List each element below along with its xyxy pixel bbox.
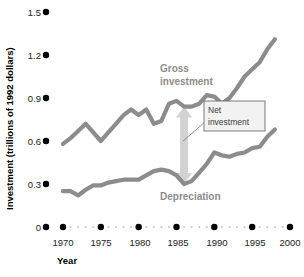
x-tick-dot-major xyxy=(173,224,179,230)
x-tick-dot-major xyxy=(98,224,104,230)
net-investment-arrow-shaft xyxy=(180,116,188,175)
x-tick-dot-minor xyxy=(145,226,147,228)
x-tick-dot-major xyxy=(60,224,66,230)
y-tick-label-4: 1.2 xyxy=(28,50,41,61)
x-tick-label-2000: 2000 xyxy=(279,237,300,248)
x-tick-dot-minor xyxy=(85,226,87,228)
y-tick-dot-5 xyxy=(43,9,49,15)
x-tick-dot-minor xyxy=(236,226,238,228)
x-tick-dot-minor xyxy=(228,226,230,228)
x-tick-dot-minor xyxy=(92,226,94,228)
y-tick-label-1: 0.3 xyxy=(28,179,41,190)
x-tick-dot-minor xyxy=(191,226,193,228)
x-tick-label-1995: 1995 xyxy=(244,237,265,248)
x-tick-dot-minor xyxy=(107,226,109,228)
x-tick-dot-minor xyxy=(130,226,132,228)
x-tick-label-1985: 1985 xyxy=(167,237,188,248)
depreciation-label: Depreciation xyxy=(160,191,221,202)
x-tick-dot-minor xyxy=(244,226,246,228)
x-tick-dot-minor xyxy=(198,226,200,228)
x-tick-dot-minor xyxy=(168,226,170,228)
y-tick-label-3: 0.9 xyxy=(28,93,41,104)
x-axis-title: Year xyxy=(57,255,77,266)
x-tick-dot-major xyxy=(249,224,255,230)
net-investment-label-line1: Net xyxy=(208,105,222,115)
x-tick-dot-minor xyxy=(221,226,223,228)
x-tick-dot-major xyxy=(211,224,217,230)
y-tick-label-0: 0 xyxy=(36,222,41,233)
y-tick-label-2: 0.6 xyxy=(28,136,41,147)
x-tick-dot-minor xyxy=(69,226,71,228)
x-tick-label-1975: 1975 xyxy=(90,237,111,248)
x-tick-label-1990: 1990 xyxy=(206,237,227,248)
x-tick-dot-minor xyxy=(122,226,124,228)
x-tick-label-1970: 1970 xyxy=(52,237,73,248)
y-tick-dot-2 xyxy=(43,138,49,144)
x-tick-dot-minor xyxy=(183,226,185,228)
y-tick-dot-3 xyxy=(43,95,49,101)
series-line-depreciation xyxy=(63,130,275,196)
x-tick-dot-minor xyxy=(115,226,117,228)
net-investment-label-line2: investment xyxy=(208,117,250,127)
x-tick-dot-minor xyxy=(259,226,261,228)
x-tick-dot-minor xyxy=(153,226,155,228)
chart-container: Investment (trillions of 1992 dollars) 0… xyxy=(0,0,304,277)
investment-line-chart: Investment (trillions of 1992 dollars) 0… xyxy=(0,0,304,277)
gross-investment-label-line1: Gross xyxy=(160,63,189,74)
x-tick-dot-minor xyxy=(206,226,208,228)
y-tick-label-5: 1.5 xyxy=(28,7,41,18)
y-tick-dot-4 xyxy=(43,52,49,58)
net-investment-arrow xyxy=(176,107,192,184)
x-tick-dot-minor xyxy=(160,226,162,228)
x-axis-dot-baseline xyxy=(60,224,293,230)
y-axis-title: Investment (trillions of 1992 dollars) xyxy=(4,47,15,210)
x-tick-dot-minor xyxy=(281,226,283,228)
x-tick-label-1980: 1980 xyxy=(129,237,150,248)
x-tick-dot-minor xyxy=(77,226,79,228)
x-tick-dot-minor xyxy=(274,226,276,228)
y-tick-dot-1 xyxy=(43,181,49,187)
x-tick-dot-major xyxy=(287,224,293,230)
gross-investment-label-line2: investment xyxy=(160,76,213,87)
y-tick-dot-0 xyxy=(43,224,49,230)
x-tick-dot-major xyxy=(135,224,141,230)
x-tick-dot-minor xyxy=(266,226,268,228)
